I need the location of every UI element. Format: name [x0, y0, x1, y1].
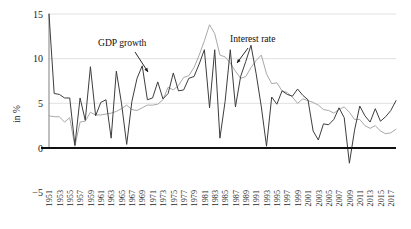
y-axis-title: in % [12, 105, 22, 123]
x-tick-label: 1991 [252, 190, 261, 206]
economic-indicators-line-chart: 151050−5in %1951195319551957195919611963… [0, 0, 411, 229]
x-tick-label: 2003 [315, 190, 324, 206]
x-tick-label: 1955 [66, 190, 75, 206]
x-tick-label: 1969 [138, 190, 147, 206]
x-tick-label: 2015 [377, 190, 386, 206]
chart-container: 151050−5in %1951195319551957195919611963… [0, 0, 411, 229]
x-tick-label: 2009 [346, 190, 355, 206]
x-tick-label: 1983 [211, 190, 220, 206]
x-tick-label: 2017 [387, 190, 396, 206]
x-axis-tick-labels: 1951195319551957195919611963196519671969… [45, 190, 396, 206]
x-tick-label: 1985 [221, 190, 230, 206]
x-tick-label: 2005 [325, 190, 334, 206]
x-tick-label: 1995 [273, 190, 282, 206]
x-tick-label: 1959 [87, 190, 96, 206]
x-tick-label: 2007 [335, 190, 344, 206]
x-tick-label: 1989 [242, 190, 251, 206]
x-tick-label: 1979 [190, 190, 199, 206]
x-tick-label: 1981 [201, 190, 210, 206]
x-tick-label: 1999 [294, 190, 303, 206]
x-tick-label: 1951 [45, 190, 54, 206]
y-tick-label: −5 [32, 187, 43, 198]
x-tick-label: 1965 [118, 190, 127, 206]
x-tick-label: 1953 [56, 190, 65, 206]
x-tick-label: 2001 [304, 190, 313, 206]
grid-lines [49, 14, 396, 103]
x-tick-label: 1997 [283, 190, 292, 206]
interest-rate-annotation: Interest rate [230, 33, 276, 44]
y-tick-label: 5 [38, 98, 43, 109]
x-tick-label: 1961 [97, 190, 106, 206]
x-tick-label: 1967 [128, 190, 137, 206]
y-axis-tick-labels: 151050−5 [32, 9, 43, 199]
x-tick-label: 2013 [366, 190, 375, 206]
x-tick-label: 1963 [107, 190, 116, 206]
x-tick-label: 1977 [180, 190, 189, 206]
y-tick-label: 10 [33, 53, 43, 64]
x-tick-label: 1973 [159, 190, 168, 206]
x-tick-label: 1957 [76, 190, 85, 206]
x-tick-label: 1971 [149, 190, 158, 206]
x-tick-label: 1993 [263, 190, 272, 206]
x-tick-label: 1975 [170, 190, 179, 206]
x-tick-label: 2011 [356, 190, 365, 206]
y-tick-label: 15 [33, 9, 43, 20]
x-tick-label: 1987 [232, 190, 241, 206]
gdp-growth-annotation: GDP growth [98, 37, 147, 48]
